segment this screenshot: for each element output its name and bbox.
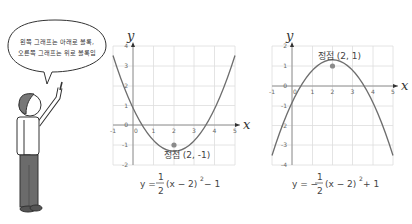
person-illustration [17,82,62,212]
svg-text:-1: -1 [269,88,275,95]
right-vertex-point [330,63,335,68]
svg-text:+ 1: + 1 [363,179,379,189]
left-graph: y x -1 0 1 2 3 4 5 4 3 2 1 0 -1 -2 정점 (2… [110,28,251,196]
right-x-label: x [401,78,409,93]
right-equation: y = − 1 2 (x − 2) 2 + 1 [292,172,379,196]
svg-text:1: 1 [158,172,164,182]
svg-text:4: 4 [371,88,375,95]
svg-text:1: 1 [317,172,323,182]
svg-text:5: 5 [233,127,237,134]
svg-text:4: 4 [124,42,128,49]
svg-text:-2: -2 [122,161,128,168]
svg-text:5: 5 [391,88,395,95]
svg-text:3: 3 [351,88,355,95]
bubble-text-line1: 왼쪽 그래프는 아래로 볼록, [20,38,94,46]
svg-text:2: 2 [331,88,335,95]
svg-text:y = −: y = − [292,179,318,189]
svg-text:y =: y = [140,179,156,189]
svg-text:2: 2 [317,186,323,196]
right-y-label: y [285,28,294,43]
right-graph: y x -1 0 1 2 3 4 5 2 1 0 -1 -2 -3 -4 정점 … [269,28,409,196]
svg-text:1: 1 [311,88,315,95]
svg-text:2: 2 [172,127,176,134]
speech-bubble: 왼쪽 그래프는 아래로 볼록, 오른쪽 그래프는 위로 볼록임 [8,20,106,84]
left-x-ticks: -1 0 1 2 3 4 5 [110,127,237,134]
figure: 왼쪽 그래프는 아래로 볼록, 오른쪽 그래프는 위로 볼록임 [0,0,412,224]
right-x-ticks: -1 0 1 2 3 4 5 [269,88,395,95]
svg-text:-1: -1 [110,127,116,134]
svg-text:0: 0 [124,121,128,128]
left-vertex-label: 정점 (2, -1) [164,149,210,160]
svg-text:-3: -3 [281,141,287,148]
svg-text:3: 3 [124,62,128,69]
svg-text:0: 0 [283,82,287,89]
svg-text:(x − 2): (x − 2) [166,179,197,189]
left-x-label: x [243,117,251,132]
svg-text:-4: -4 [281,161,287,168]
right-y-ticks: 2 1 0 -1 -2 -3 -4 [281,42,287,168]
svg-text:1: 1 [283,62,287,69]
svg-text:-1: -1 [281,102,287,109]
svg-text:4: 4 [213,127,217,134]
left-y-label: y [126,28,135,43]
right-vertex-label: 정점 (2, 1) [318,50,361,61]
bubble-text-line2: 오른쪽 그래프는 위로 볼록임 [18,49,96,57]
svg-text:3: 3 [192,127,196,134]
svg-text:-1: -1 [122,141,128,148]
left-y-ticks: 4 3 2 1 0 -1 -2 [122,42,128,168]
svg-text:2: 2 [283,42,287,49]
svg-text:(x − 2): (x − 2) [325,179,356,189]
svg-text:1: 1 [124,102,128,109]
svg-text:2: 2 [158,186,164,196]
left-equation: y = 1 2 (x − 2) 2 − 1 [140,172,220,196]
svg-text:1: 1 [152,127,156,134]
svg-text:− 1: − 1 [204,179,220,189]
svg-text:0: 0 [134,127,138,134]
left-vertex-point [171,142,176,147]
